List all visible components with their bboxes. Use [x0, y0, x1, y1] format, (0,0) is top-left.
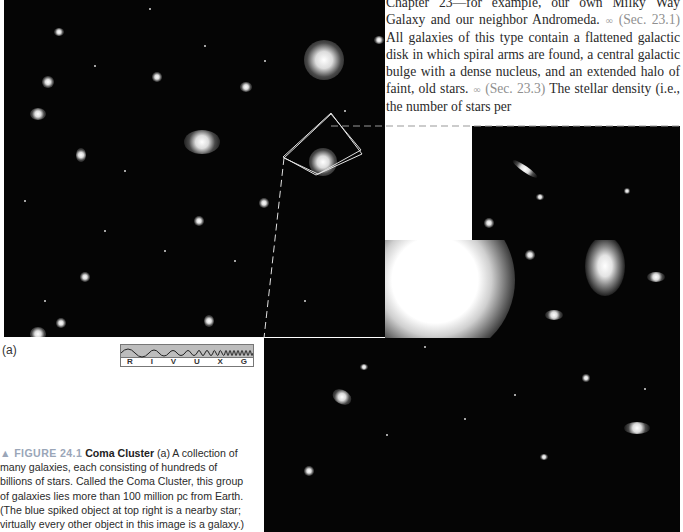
caption-text: (a) A collection of many galaxies, each …: [0, 447, 244, 530]
panel-label-a: (a): [2, 343, 17, 357]
spectrum-band-indicator: R I V U X G: [120, 344, 254, 367]
band-u: U: [194, 357, 200, 366]
figure-caption: ▲ FIGURE 24.1 Coma Cluster (a) A collect…: [0, 446, 245, 531]
band-i: I: [151, 357, 153, 366]
band-r: R: [127, 357, 133, 366]
band-g: G: [241, 357, 247, 366]
band-x: X: [218, 357, 223, 366]
figure-title: Coma Cluster: [85, 447, 154, 459]
figure-number: ▲ FIGURE 24.1: [0, 447, 82, 459]
band-v: V: [171, 357, 176, 366]
band-letters: R I V U X G: [121, 357, 253, 366]
